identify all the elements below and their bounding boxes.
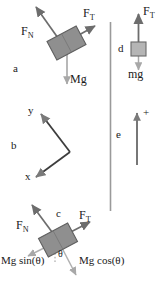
panel-b-x-axis-arrow: [36, 152, 70, 177]
physics-free-body-diagram: FN FT Mg a y x b FN FT Mg sin(θ) Mg cos(…: [0, 0, 161, 282]
panel-b-group: [36, 114, 70, 177]
panel-e-positive-label: +: [143, 107, 149, 118]
panel-c-normal-force-arrow: [32, 205, 52, 232]
panel-c-letter: c: [56, 208, 61, 219]
panel-d-group: [131, 14, 146, 70]
panel-d-weight-label: mg: [128, 68, 143, 80]
panel-e-letter: e: [116, 129, 121, 140]
panel-c-weight-parallel-label: Mg sin(θ): [1, 255, 44, 266]
panel-b-y-axis-label: y: [28, 105, 34, 116]
panel-c-angle-label: θ: [58, 249, 63, 259]
panel-a-weight-label: Mg: [70, 73, 87, 85]
panel-c-weight-perpendicular-label: Mg cos(θ): [79, 255, 124, 266]
panel-c-normal-force-label: FN: [16, 219, 29, 235]
panel-d-block: [131, 42, 146, 56]
panel-a-normal-force-label: FN: [21, 25, 34, 41]
panel-b-x-axis-label: x: [25, 171, 31, 182]
panel-a-normal-force-arrow: [36, 7, 58, 38]
panel-b-y-axis-arrow: [41, 114, 70, 152]
panel-c-weight-perpendicular-arrow: [62, 248, 76, 275]
panel-c-tension-label: FT: [79, 209, 91, 225]
panel-d-tension-label: FT: [143, 5, 155, 21]
panel-d-letter: d: [118, 43, 124, 54]
diagram-canvas: [0, 0, 161, 282]
panel-a-tension-label: FT: [83, 7, 95, 23]
panel-b-letter: b: [11, 140, 17, 151]
panel-a-letter: a: [13, 63, 18, 74]
